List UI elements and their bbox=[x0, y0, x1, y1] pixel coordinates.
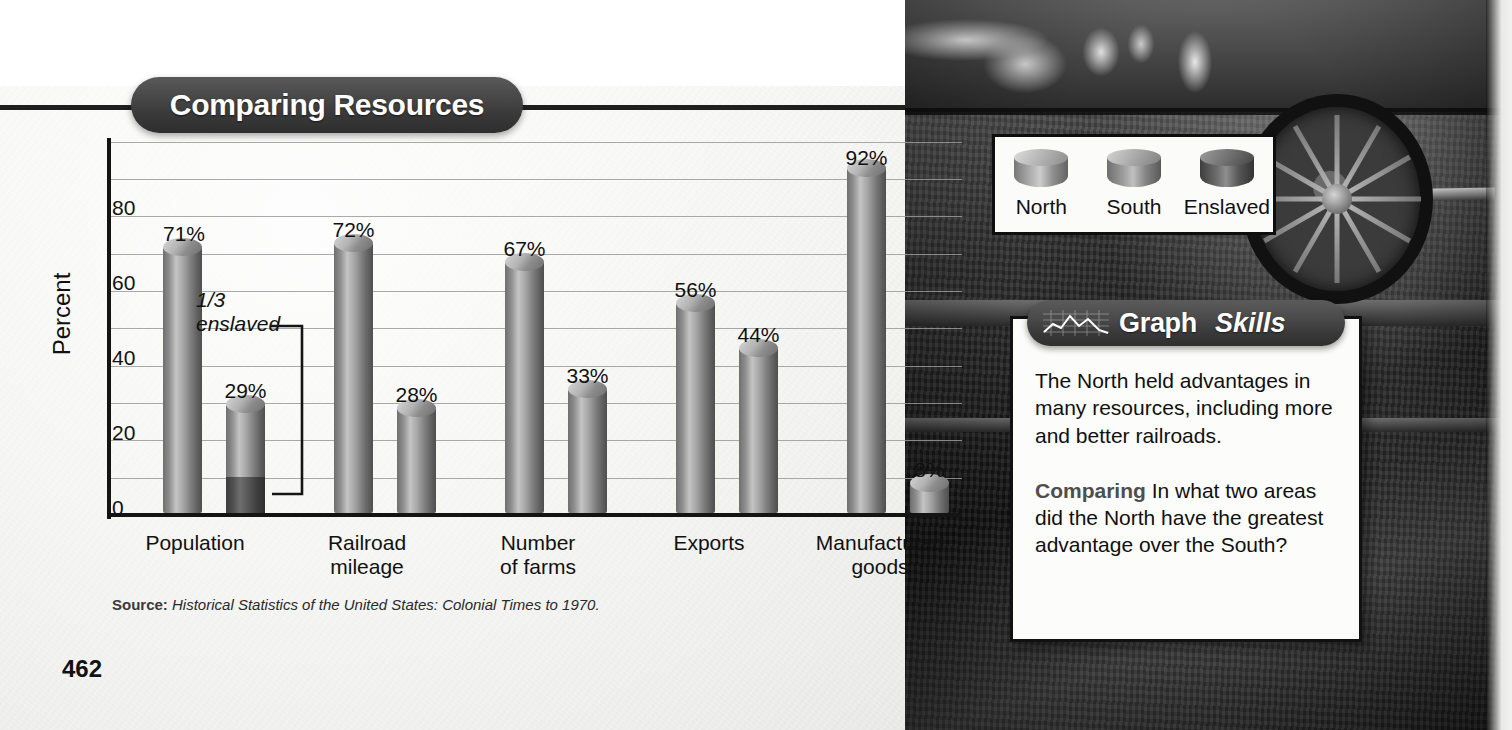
category-farms-line2: of farms bbox=[443, 555, 633, 579]
bar-value-exports-north: 56% bbox=[671, 278, 720, 302]
bar-population-south bbox=[226, 404, 265, 513]
y-tick-0: 0 bbox=[112, 496, 124, 520]
bar-value-farms-south: 33% bbox=[563, 364, 612, 388]
y-axis-title: Percent bbox=[48, 244, 76, 384]
category-exports-line1: Exports bbox=[614, 531, 804, 555]
graph-skills-body: The North held advantages in many resour… bbox=[1013, 319, 1359, 559]
graph-skills-question-label: Comparing bbox=[1035, 479, 1146, 502]
x-axis-line bbox=[107, 513, 962, 517]
comparing-resources-chart: Percent 80 60 40 20 0 71% 29% 1/3 enslav… bbox=[0, 0, 905, 730]
graph-skills-title-graph: Graph bbox=[1119, 308, 1197, 339]
bar-value-population-north: 71% bbox=[163, 222, 202, 246]
bar-exports-south bbox=[739, 348, 778, 513]
legend-item-south: South bbox=[1091, 149, 1177, 219]
legend-item-enslaved: Enslaved bbox=[1184, 149, 1270, 219]
legend-label-enslaved: Enslaved bbox=[1184, 195, 1270, 219]
graph-skills-question: Comparing In what two areas did the Nort… bbox=[1035, 477, 1337, 559]
line-chart-icon bbox=[1043, 310, 1109, 336]
bar-exports-north bbox=[676, 303, 715, 513]
legend-swatch-south-icon bbox=[1107, 149, 1161, 189]
graph-skills-title-skills: Skills bbox=[1215, 308, 1286, 339]
legend-label-north: North bbox=[998, 195, 1084, 219]
category-label-railroad: Railroad mileage bbox=[272, 531, 462, 578]
legend-swatch-enslaved-icon bbox=[1200, 149, 1254, 189]
bar-farms-north bbox=[505, 262, 544, 513]
bar-railroad-north bbox=[334, 243, 373, 513]
category-label-farms: Number of farms bbox=[443, 531, 633, 578]
bar-value-manufactured-south: 8% bbox=[905, 458, 954, 482]
y-tick-40: 40 bbox=[112, 346, 135, 370]
bar-farms-south bbox=[568, 389, 607, 513]
category-manufactured-line2: goods bbox=[785, 555, 975, 579]
graph-skills-banner: Graph Skills bbox=[1027, 300, 1345, 346]
y-axis-line bbox=[107, 138, 111, 519]
bar-value-population-south: 29% bbox=[221, 379, 270, 403]
chart-legend: North South Enslaved bbox=[992, 134, 1276, 235]
bar-value-railroad-north: 72% bbox=[329, 218, 378, 242]
category-population-line1: Population bbox=[100, 531, 290, 555]
bar-manufactured-south bbox=[910, 483, 949, 513]
legend-swatch-north-icon bbox=[1014, 149, 1068, 189]
page-number: 462 bbox=[62, 655, 102, 683]
bar-railroad-south bbox=[397, 408, 436, 513]
y-tick-20: 20 bbox=[112, 421, 135, 445]
bar-segment-enslaved bbox=[226, 477, 265, 513]
page-edge-shadow bbox=[1486, 0, 1512, 730]
bar-value-exports-south: 44% bbox=[734, 323, 783, 347]
source-line: Source: Historical Statistics of the Uni… bbox=[112, 596, 600, 613]
legend-label-south: South bbox=[1091, 195, 1177, 219]
category-farms-line1: Number bbox=[443, 531, 633, 555]
bar-value-farms-north: 67% bbox=[500, 237, 549, 261]
graph-skills-panel: The North held advantages in many resour… bbox=[1010, 316, 1362, 642]
source-text: Historical Statistics of the United Stat… bbox=[172, 596, 600, 613]
bar-value-manufactured-north: 92% bbox=[842, 146, 891, 170]
source-label: Source: bbox=[112, 596, 168, 613]
legend-item-north: North bbox=[998, 149, 1084, 219]
category-label-exports: Exports bbox=[614, 531, 804, 555]
annotation-line-1: 1/3 bbox=[196, 288, 280, 312]
graph-skills-paragraph: The North held advantages in many resour… bbox=[1035, 367, 1337, 449]
category-label-population: Population bbox=[100, 531, 290, 555]
category-label-manufactured: Manufactured goods bbox=[785, 531, 975, 578]
y-tick-80: 80 bbox=[112, 196, 135, 220]
bar-population-north bbox=[163, 247, 202, 513]
bar-value-railroad-south: 28% bbox=[392, 383, 441, 407]
category-railroad-line2: mileage bbox=[272, 555, 462, 579]
bar-manufactured-north bbox=[847, 168, 886, 513]
category-manufactured-line1: Manufactured bbox=[785, 531, 975, 555]
annotation-bracket bbox=[268, 320, 306, 500]
category-railroad-line1: Railroad bbox=[272, 531, 462, 555]
y-tick-60: 60 bbox=[112, 271, 135, 295]
